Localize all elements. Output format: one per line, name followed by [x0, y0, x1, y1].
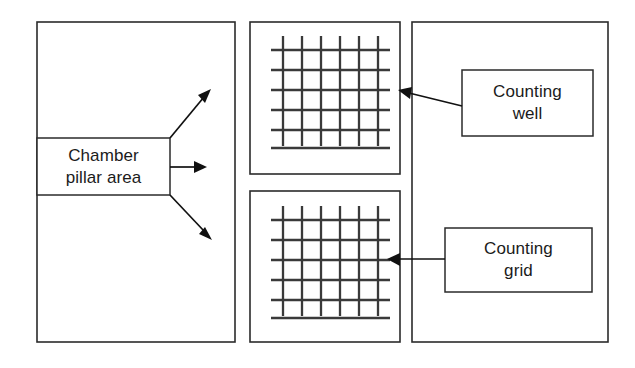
counting-chamber-diagram: Chamber pillar area Counting well Counti…	[0, 0, 635, 368]
counting-well-box	[462, 70, 593, 136]
diagram-canvas	[0, 0, 635, 368]
counting-grid-box	[445, 228, 592, 292]
chamber-pillar-area-box	[37, 138, 170, 195]
